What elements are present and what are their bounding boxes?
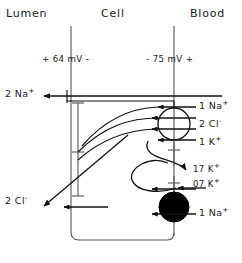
label-cotransport-k-text: 1 K <box>199 136 216 147</box>
label-cotransport-na-text: 1 Na <box>199 100 223 111</box>
apical-cl-arrow <box>44 135 128 206</box>
label-cotransport-na: 1 Na+ <box>199 100 228 111</box>
label-pump-k-in-text: 07 K <box>193 179 214 189</box>
label-pump-na-text: 1 Na <box>199 207 223 218</box>
label-cotransport-cl-text: 2 Cl <box>199 118 219 129</box>
label-pump-k-out-charge: + <box>214 162 220 170</box>
electrochemical-bar <box>72 103 84 196</box>
label-pump-k-in: 07 K+ <box>193 178 220 188</box>
label-lumen-na-charge: + <box>29 87 35 95</box>
label-cotransport-cl-charge: - <box>219 117 221 125</box>
label-lumen-cl: 2 Cl- <box>5 195 27 206</box>
label-pump-na-charge: + <box>223 206 229 214</box>
label-cotransport-na-charge: + <box>223 99 229 107</box>
intracellular-flow-curves <box>78 107 158 160</box>
label-cotransport-k-charge: + <box>216 135 222 143</box>
atpase-pump-circle <box>159 192 189 222</box>
label-lumen-na-text: 2 Na <box>5 88 29 99</box>
column-header-blood: Blood <box>190 8 225 19</box>
potential-basolateral: - 75 mV + <box>146 55 193 64</box>
column-header-lumen: Lumen <box>6 8 47 19</box>
label-pump-k-out-text: 17 K <box>193 164 214 174</box>
label-lumen-cl-text: 2 Cl <box>5 195 25 206</box>
label-lumen-cl-charge: - <box>25 194 27 202</box>
label-pump-k-in-charge: + <box>214 177 220 185</box>
label-cotransport-k: 1 K+ <box>199 136 221 147</box>
column-header-cell: Cell <box>101 8 125 19</box>
cell-basal-outline <box>71 232 174 240</box>
diagram-canvas: Lumen Cell Blood + 64 mV - - 75 mV + 2 N… <box>0 0 242 263</box>
transport-diagram-svg <box>0 0 242 263</box>
label-cotransport-cl: 2 Cl- <box>199 118 221 129</box>
potential-apical: + 64 mV - <box>42 55 89 64</box>
label-lumen-na: 2 Na+ <box>5 88 34 99</box>
label-pump-na: 1 Na+ <box>199 207 228 218</box>
label-pump-k-out: 17 K+ <box>193 163 220 173</box>
